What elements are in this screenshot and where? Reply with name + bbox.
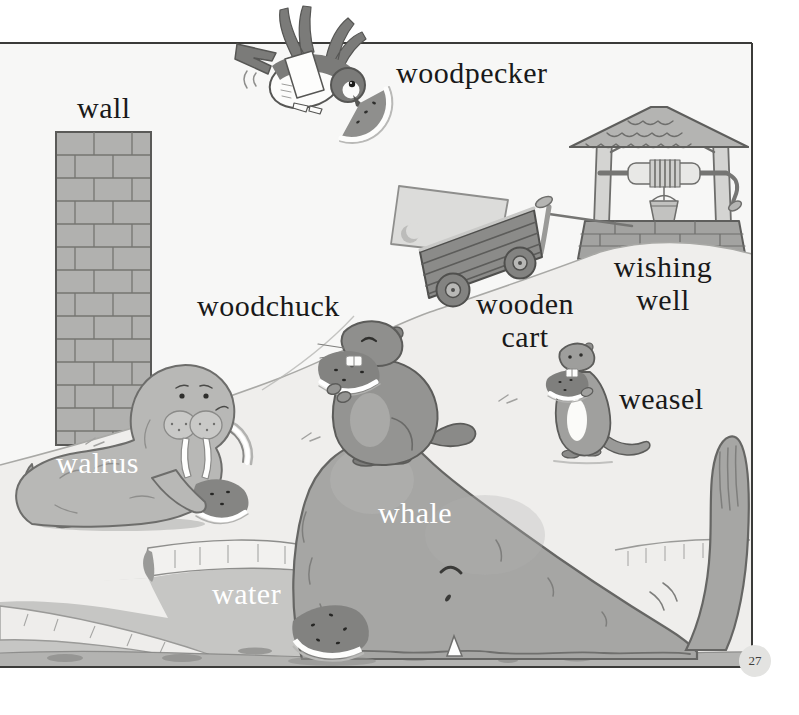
well-post-right (713, 140, 731, 224)
walrus-eye-right (203, 393, 208, 398)
label-wall: wall (77, 91, 131, 124)
woodchuck-belly (350, 393, 390, 447)
well-bucket (650, 201, 678, 221)
label-wooden-cart-line1: wooden (460, 287, 590, 320)
label-wishing-well: wishing well (604, 250, 722, 316)
woodpecker-eye (349, 81, 355, 87)
label-wooden-cart: wooden cart (460, 287, 590, 353)
label-woodpecker: woodpecker (396, 56, 548, 89)
label-wooden-cart-line2: cart (460, 320, 590, 353)
label-water: water (212, 577, 281, 610)
label-wishing-well-line1: wishing (604, 250, 722, 283)
book-page: wall woodpecker woodchuck wooden cart wi… (0, 0, 799, 715)
label-wishing-well-line2: well (604, 283, 722, 316)
walrus-muzzle-right (190, 411, 222, 439)
weasel-eye-left (568, 355, 572, 359)
page-number-badge: 27 (739, 645, 771, 677)
weasel-eye-right (579, 353, 583, 357)
label-woodchuck: woodchuck (197, 289, 340, 322)
weasel-belly (567, 399, 587, 441)
page-number: 27 (749, 653, 762, 669)
label-weasel: weasel (619, 382, 704, 415)
label-walrus: walrus (56, 446, 139, 479)
well-post-left (594, 140, 612, 224)
walrus-eye-left (179, 393, 184, 398)
label-whale: whale (378, 496, 452, 529)
